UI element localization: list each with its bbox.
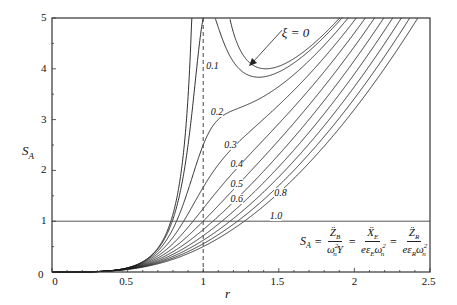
curve-label: 1.0: [270, 211, 283, 221]
curve-xi-0-1: [52, 18, 204, 272]
formula-lhs: SA: [300, 234, 311, 250]
x-tick-label: 1: [200, 276, 206, 287]
formula-fraction-2: ẌE eεEω2n: [359, 226, 386, 258]
y-tick-label: 5: [41, 12, 47, 23]
y-tick-label: 1: [41, 215, 47, 226]
curve-xi-0: [52, 18, 192, 272]
xi0-arrow: [253, 28, 284, 62]
y-tick-label: 4: [41, 63, 47, 74]
y-tick-label: 0: [38, 269, 44, 280]
curve-label: 0.1: [206, 61, 219, 71]
x-tick-label: 0.5: [119, 276, 133, 287]
curve-label: 0.6: [230, 194, 243, 204]
y-tick-label: 3: [41, 114, 47, 125]
y-tick-label: 2: [41, 164, 47, 175]
curve-label: 0.5: [230, 179, 243, 189]
formula-annotation: SA = Z̈B ω2nY = ẌE eεEω2n = Z̈R eεRω2n: [300, 226, 428, 258]
curve-label: 0.2: [211, 107, 224, 117]
formula-fraction-3: Z̈R eεRω2n: [400, 226, 427, 258]
formula-fraction-1: Z̈B ω2nY: [325, 226, 345, 258]
chart-plot: [0, 0, 457, 305]
x-tick-label: 0: [52, 276, 58, 287]
curve-label: 0.4: [230, 159, 243, 169]
curve-label: ξ = 0: [282, 28, 309, 38]
curve-label: 0.3: [224, 140, 237, 150]
curve-label: 0.8: [274, 188, 287, 198]
x-axis-label: r: [225, 286, 230, 302]
y-axis-label: SA: [22, 143, 34, 161]
curve-xi-0-1: [215, 18, 342, 77]
x-tick-label: 2.5: [422, 276, 436, 287]
x-tick-label: 2: [352, 276, 358, 287]
x-tick-label: 1.5: [271, 276, 285, 287]
